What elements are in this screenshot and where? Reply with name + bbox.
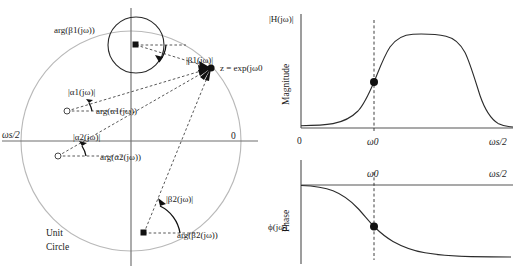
label-axis-right-zero: 0 [231,131,236,141]
label-evaluation-point: z = exp(jω0 [220,63,263,73]
zero-marker-alpha2 [55,153,61,159]
phase-plot: Phase ϕ(jω) ω0 ωs/2 [263,152,526,271]
label-mag-beta2: |β2(jω)| [166,194,193,204]
label-arg-beta2: arg(β2(jω)) [177,230,218,240]
phase-operating-point-marker [370,223,378,231]
label-mag-alpha2: |α2(jω)| [73,132,100,142]
label-unit-circle-line2: Circle [46,242,69,252]
label-mag-beta1: |β1(jω)| [186,55,213,65]
pole-marker-beta1 [133,42,139,48]
beta2-arg-arrowhead [158,198,166,206]
phase-response-curve [301,186,511,258]
phase-xtick-omega0: ω0 [367,169,379,179]
magnitude-xtick-nyquist: ωs/2 [489,137,507,147]
label-unit-circle-line1: Unit [46,228,63,238]
beta2-arg-arc [160,206,180,233]
magnitude-operating-point-marker [370,78,378,86]
magnitude-plot: |H(jω)| Magnitude 0 ω0 ωs/2 [263,0,526,152]
pole-marker-beta2 [141,230,147,236]
alpha1-arg-arrowhead [86,99,93,103]
magnitude-xtick-omega0: ω0 [367,137,379,147]
phase-xtick-nyquist: ωs/2 [489,169,507,179]
phase-y-value-label: ϕ(jω) [268,222,287,232]
vector-beta2 [144,68,211,233]
evaluation-point-marker [207,64,214,71]
magnitude-xtick-origin: 0 [297,136,302,146]
magnitude-response-curve [301,34,513,127]
alpha2-arg-arc [82,146,86,156]
magnitude-y-axis-top-label: |H(jω)| [269,14,294,24]
label-arg-alpha2: arg(α2(jω)) [100,152,141,162]
zero-marker-alpha1 [64,108,70,114]
label-mag-alpha1: |α1(jω)| [68,87,95,97]
label-arg-beta1: arg(β1(jω)) [54,25,95,35]
magnitude-y-axis-label: Magnitude [281,64,291,105]
label-axis-left-nyquist: ωs/2 [2,130,20,140]
label-arg-alpha1: arg(α1(jω)) [96,106,137,116]
figure-root: arg(β1(jω)) |β1(jω)| |α1(jω)| arg(α1(jω)… [0,0,526,271]
zplane-diagram: arg(β1(jω)) |β1(jω)| |α1(jω)| arg(α1(jω)… [0,0,263,271]
